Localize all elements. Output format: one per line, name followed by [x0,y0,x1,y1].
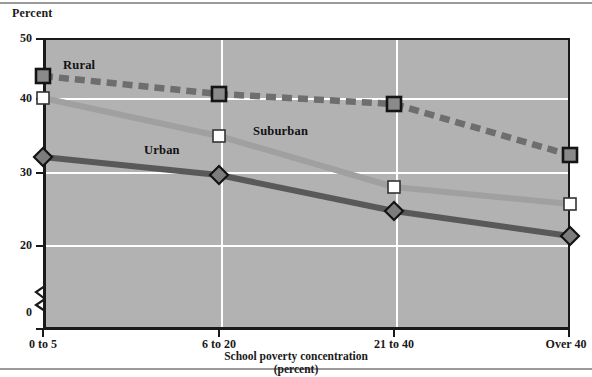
gridline-y-40 [46,98,568,100]
y-tick-label-0: 0 [8,305,32,320]
y-tick-label-40: 40 [8,91,32,106]
x-axis-title-main: School poverty concentration [0,350,592,363]
series-label-rural: Rural [63,58,95,73]
y-axis-title: Percent [12,6,53,21]
gridline-x-21-to-40 [396,40,398,327]
plot-area [43,38,570,330]
x-axis-title-units: (percent) [0,363,592,376]
y-tick-label-20: 20 [8,238,32,253]
x-tick-mark-over-40 [568,330,570,337]
series-label-suburban: Suburban [253,124,308,139]
x-tick-mark-6-to-20 [218,330,220,337]
x-tick-mark-21-to-40 [393,330,395,337]
gridline-x-6-to-20 [221,40,223,327]
y-tick-label-50: 50 [8,31,32,46]
chart-figure: Percent 50 40 30 20 0 [0,0,592,377]
top-rule [0,2,592,4]
gridline-y-20 [46,245,568,247]
series-label-urban: Urban [144,143,180,158]
gridline-y-30 [46,172,568,174]
y-tick-label-30: 30 [8,165,32,180]
x-tick-mark-0-to-5 [42,330,44,337]
x-axis-title: School poverty concentration (percent) [0,350,592,376]
